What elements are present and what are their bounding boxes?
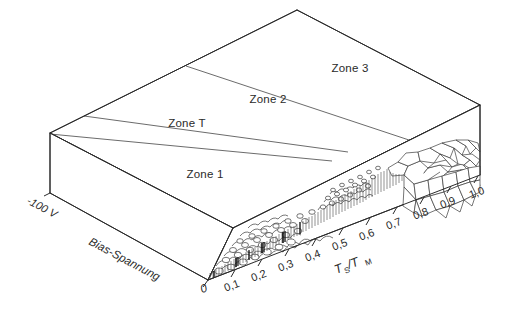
zone1-blob xyxy=(285,219,291,224)
x-tick-label-0-6: 0,6 xyxy=(357,226,376,243)
zone1-blob xyxy=(234,252,242,257)
structure-zone-model-svg: Zone 1 Zone T Zone 2 Zone 3 0 0,1 0,2 0,… xyxy=(0,0,520,325)
x-tick-label-0-1: 0,1 xyxy=(222,277,241,294)
zone1-blob xyxy=(242,243,249,248)
zone1-blob xyxy=(261,229,267,234)
zone-label-zone-3: Zone 3 xyxy=(331,62,368,74)
zone1-blob xyxy=(270,237,278,242)
zoneT-blob xyxy=(349,179,354,183)
zone1-blob xyxy=(302,219,309,224)
zone1-blob xyxy=(290,223,297,228)
x-tick-label-0-7: 0,7 xyxy=(384,215,403,232)
x-tick-label-0-5: 0,5 xyxy=(330,236,349,253)
zone-label-zone-t: Zone T xyxy=(168,117,205,129)
zone1-blob xyxy=(230,248,237,253)
x-axis-title-sub-M: M xyxy=(364,257,374,268)
zone1-blob xyxy=(237,239,243,244)
zoneT-blob xyxy=(320,205,326,209)
zoneT-blob xyxy=(376,166,381,170)
tick-minus-100v xyxy=(44,193,50,196)
x-tick-label-0-4: 0,4 xyxy=(303,247,322,264)
zoneT-blob xyxy=(352,183,357,187)
zoneT-blob xyxy=(358,175,363,179)
zoneT-blob xyxy=(343,188,348,192)
zoneT-blob xyxy=(340,183,345,187)
zoneT-blob xyxy=(334,192,339,196)
zoneT-blob xyxy=(331,188,336,192)
x-axis-title-group: T S /T M xyxy=(332,250,373,279)
zone1-blob xyxy=(309,210,315,215)
zone1-blob xyxy=(254,238,261,243)
zone3-front-grain xyxy=(468,166,480,182)
zoneT-blob xyxy=(325,196,330,200)
depth-axis-tick xyxy=(44,193,50,196)
zoneT-blob xyxy=(367,170,372,174)
x-tick-label-0-3: 0,3 xyxy=(276,257,295,274)
zone1-blob xyxy=(246,247,254,252)
x-tick-label-0-2: 0,2 xyxy=(249,267,268,284)
x-tick-label-0: 0 xyxy=(198,281,209,295)
zone1-blob xyxy=(222,257,230,262)
zone1-blob xyxy=(294,228,302,233)
depth-axis-end-label: -100 V xyxy=(25,194,61,221)
zone1-blob xyxy=(273,224,279,229)
zone1-blob xyxy=(249,234,255,239)
zone1-blob xyxy=(297,214,303,219)
structure-zone-model-figure: Zone 1 Zone T Zone 2 Zone 3 0 0,1 0,2 0,… xyxy=(0,0,520,325)
zone-label-zone-1: Zone 1 xyxy=(186,168,223,180)
zone1-blob xyxy=(266,233,273,238)
zone1-blob xyxy=(278,228,285,233)
zone-label-zone-2: Zone 2 xyxy=(249,93,286,105)
